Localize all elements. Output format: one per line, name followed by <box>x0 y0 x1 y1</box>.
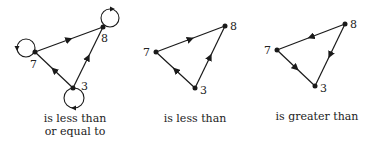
node-label-8: 8 <box>350 18 357 31</box>
node-label-8: 8 <box>230 20 237 33</box>
loop-arrow-7 <box>15 46 20 51</box>
node-label-3: 3 <box>320 82 327 95</box>
node-8 <box>223 24 228 29</box>
node-7 <box>154 50 159 55</box>
node-3 <box>313 84 318 89</box>
node-3 <box>193 86 198 91</box>
edge-3-to-7 <box>156 52 195 88</box>
node-label-7: 7 <box>264 44 271 57</box>
self-loop-7 <box>17 39 35 57</box>
caption-greater-than: is greater than <box>262 110 372 123</box>
node-label-3: 3 <box>81 80 88 93</box>
self-loop-8 <box>101 9 119 27</box>
digraph-greater-than: 7 8 3 <box>264 18 357 95</box>
node-7 <box>275 48 280 53</box>
loop-arrow-8 <box>110 7 115 12</box>
digraph-less-than: 7 8 3 <box>143 20 237 97</box>
edge-7-to-3 <box>277 50 315 86</box>
node-label-3: 3 <box>200 84 207 97</box>
caption-line-1: is greater than <box>262 110 372 123</box>
node-7 <box>33 50 38 55</box>
caption-less-than-or-equal: is less than or equal to <box>30 112 120 138</box>
node-label-8: 8 <box>101 32 108 45</box>
digraph-less-than-or-equal: 7 8 3 <box>15 7 120 111</box>
caption-line-1: is less than <box>30 112 120 125</box>
node-label-7: 7 <box>30 58 37 71</box>
caption-line-1: is less than <box>150 112 240 125</box>
node-3 <box>71 86 76 91</box>
node-label-7: 7 <box>143 46 150 59</box>
caption-less-than: is less than <box>150 112 240 125</box>
node-8 <box>343 22 348 27</box>
node-8 <box>101 25 106 30</box>
loop-arrow-3 <box>71 106 76 111</box>
caption-line-2: or equal to <box>30 125 120 138</box>
edge-3-to-7 <box>35 52 73 88</box>
